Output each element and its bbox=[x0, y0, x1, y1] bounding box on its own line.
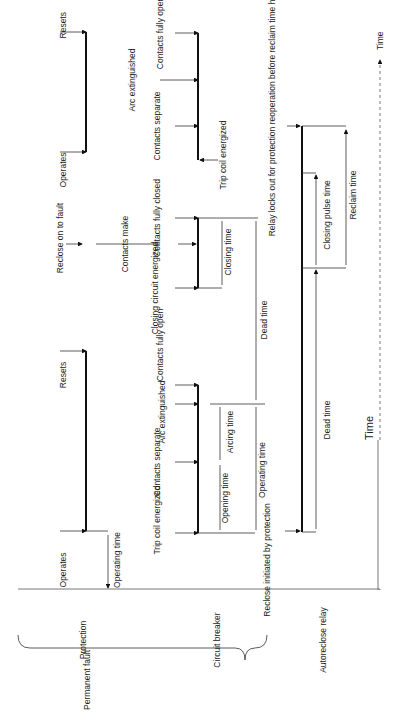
label-trip-coil-energized-2: Trip coil energized bbox=[218, 120, 228, 189]
label-reclose-on-to-fault: Reclose on to fault bbox=[55, 202, 65, 273]
label-resets-2: Resets bbox=[58, 12, 68, 38]
label-operating-time-cb: Operating time bbox=[257, 442, 267, 498]
label-closing-pulse-time: Closing pulse time bbox=[322, 180, 332, 250]
label-contacts-fully-closed: Contacts fully closed bbox=[152, 179, 162, 257]
label-relay-dead-time: Dead time bbox=[322, 400, 332, 439]
label-lockout-note: Relay locks out for protection reoperati… bbox=[267, 0, 277, 236]
label-arc-extinguished-2: Arc extinguished bbox=[127, 48, 137, 111]
label-contacts-fully-open-2: Contacts fully open bbox=[155, 0, 165, 69]
label-operates-2: Operates bbox=[58, 153, 68, 188]
time-label: Time bbox=[363, 416, 375, 440]
label-arcing-time: Arcing time bbox=[225, 410, 235, 453]
label-reclose-initiated: Reclose initiated by protection bbox=[262, 503, 272, 617]
label-operating-time: Operating time bbox=[112, 532, 122, 588]
label-opening-time: Opening time bbox=[220, 472, 230, 523]
label-arc-extinguished: Arc extinguished bbox=[157, 380, 167, 443]
label-resets: Resets bbox=[58, 362, 68, 388]
label-contacts-make: Contacts make bbox=[120, 215, 130, 272]
label-contacts-separate-2: Contacts separate bbox=[152, 91, 162, 160]
group-permanent-fault: Permanent fault bbox=[82, 649, 92, 710]
group-circuit-breaker: Circuit breaker bbox=[212, 612, 222, 667]
label-reclaim-time: Reclaim time bbox=[348, 170, 358, 219]
group-autoreclose-relay: Autoreclose relay bbox=[318, 606, 328, 672]
label-operates: Operates bbox=[58, 553, 68, 588]
brace bbox=[18, 635, 267, 660]
label-dead-time: Dead time bbox=[259, 300, 269, 339]
autoreclose-timing-diagram: Time Time Protection Circuit breaker Per… bbox=[0, 0, 393, 727]
time-axis-label: Time bbox=[375, 31, 385, 50]
label-closing-time: Closing time bbox=[223, 228, 233, 275]
